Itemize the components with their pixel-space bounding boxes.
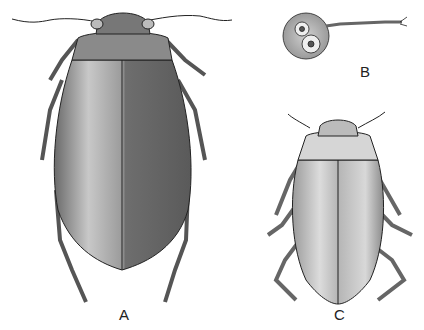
beetle-a — [12, 13, 232, 302]
detail-b — [283, 13, 407, 59]
beetle-illustration — [0, 0, 424, 330]
label-a: A — [119, 306, 129, 323]
beetle-c — [268, 112, 412, 304]
label-b: B — [360, 63, 370, 80]
label-c: C — [334, 306, 345, 323]
